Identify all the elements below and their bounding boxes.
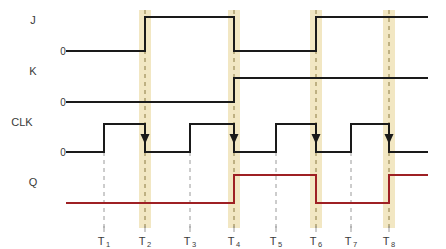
time-marker-subscript: 2 <box>147 240 151 249</box>
time-marker-t7: T7 <box>345 235 357 249</box>
signal-label-j: J <box>30 14 36 26</box>
time-marker-letter: T <box>228 235 235 247</box>
signal-label-clk: CLK <box>11 116 33 128</box>
waveforms-layer <box>66 17 428 203</box>
time-marker-t4: T4 <box>228 235 240 249</box>
zero-level-label-j: 0 <box>60 46 66 57</box>
time-marker-t6: T6 <box>310 235 322 249</box>
time-marker-t8: T8 <box>383 235 395 249</box>
waveform-j <box>66 17 428 51</box>
time-marker-labels-layer: T1T2T3T4T5T6T7T8 <box>98 235 395 249</box>
time-marker-letter: T <box>270 235 277 247</box>
time-marker-letter: T <box>310 235 317 247</box>
waveform-k <box>66 78 428 102</box>
waveform-q <box>66 175 428 203</box>
time-marker-subscript: 8 <box>391 240 395 249</box>
time-marker-letter: T <box>345 235 352 247</box>
highlight-bands-layer <box>139 10 395 228</box>
time-marker-t1: T1 <box>98 235 110 249</box>
time-marker-subscript: 3 <box>192 240 196 249</box>
time-marker-subscript: 1 <box>106 240 110 249</box>
clock-edge-arrows-layer <box>141 134 394 144</box>
timing-diagram-svg: J0K0CLK0Q T1T2T3T4T5T6T7T8 <box>0 0 446 249</box>
time-marker-t2: T2 <box>139 235 151 249</box>
timing-diagram-canvas: J0K0CLK0Q T1T2T3T4T5T6T7T8 <box>0 0 446 249</box>
time-marker-t5: T5 <box>270 235 282 249</box>
time-marker-letter: T <box>139 235 146 247</box>
time-marker-t3: T3 <box>184 235 196 249</box>
time-marker-subscript: 4 <box>236 240 240 249</box>
time-marker-subscript: 6 <box>318 240 322 249</box>
zero-level-label-clk: 0 <box>60 147 66 158</box>
time-marker-letter: T <box>98 235 105 247</box>
waveform-clk <box>66 124 428 152</box>
signal-label-k: K <box>29 65 37 77</box>
time-marker-letter: T <box>383 235 390 247</box>
signal-label-q: Q <box>29 176 38 188</box>
time-marker-subscript: 7 <box>353 240 357 249</box>
time-marker-letter: T <box>184 235 191 247</box>
time-marker-subscript: 5 <box>278 240 282 249</box>
signal-labels-layer: J0K0CLK0Q <box>11 14 66 188</box>
zero-level-label-k: 0 <box>60 97 66 108</box>
